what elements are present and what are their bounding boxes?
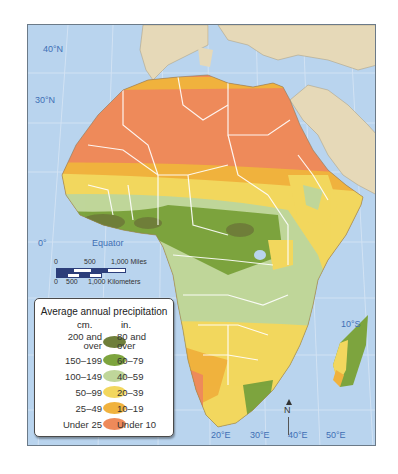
legend-cm-label: Under 25 <box>63 420 102 429</box>
scale-km-end: 1,000 Kilometers <box>88 278 141 285</box>
scale-miles-mid: 500 <box>84 258 96 265</box>
legend-item: 200 and over 80 and over <box>35 332 175 350</box>
equator-label: Equator <box>92 238 124 248</box>
scale-km-mid: 500 <box>66 278 78 285</box>
north-label: N <box>284 405 291 415</box>
latitude-label-0: 0° <box>38 238 47 248</box>
legend-cm-label: 50–99 <box>76 388 102 397</box>
longitude-label-30e: 30°E <box>250 430 270 440</box>
legend-in-label: 20–39 <box>117 388 143 397</box>
legend-cm-label: 150–199 <box>65 356 102 365</box>
legend-item: Under 25 Under 10 <box>35 416 175 434</box>
legend-title: Average annual precipitation <box>35 306 173 317</box>
north-arrow: N <box>283 399 297 445</box>
precipitation-legend: Average annual precipitation cm. in. 200… <box>34 298 174 437</box>
legend-cm-label: 100–149 <box>65 372 102 381</box>
north-arrow-shaft <box>288 417 289 435</box>
legend-in-label: over <box>117 341 135 350</box>
scale-km-zero: 0 <box>54 278 58 285</box>
legend-col-cm: cm. <box>77 319 92 330</box>
legend-col-in: in. <box>121 319 131 330</box>
scale-miles-zero: 0 <box>54 258 58 265</box>
legend-cm-label: 25–49 <box>76 404 102 413</box>
scale-miles-end: 1,000 Miles <box>111 258 147 265</box>
longitude-label-20e: 20°E <box>211 430 231 440</box>
longitude-label-50e: 50°E <box>326 430 346 440</box>
legend-in-label: 40–59 <box>117 372 143 381</box>
latitude-label-10s: 10°S <box>341 319 361 329</box>
legend-cm-label: over <box>84 341 102 350</box>
legend-in-label: 60–79 <box>117 356 143 365</box>
legend-in-label: Under 10 <box>117 420 156 429</box>
legend-in-label: 10–19 <box>117 404 143 413</box>
latitude-label-40n: 40°N <box>43 44 63 54</box>
latitude-label-30n: 30°N <box>35 95 55 105</box>
